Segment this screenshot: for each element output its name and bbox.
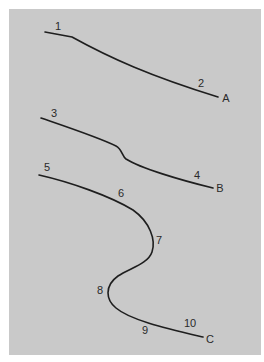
curve-b bbox=[41, 118, 213, 188]
point-label-8: 8 bbox=[97, 285, 103, 296]
curve-label-c: C bbox=[206, 334, 214, 345]
point-label-6: 6 bbox=[118, 188, 124, 199]
point-label-4: 4 bbox=[194, 170, 200, 181]
curve-label-b: B bbox=[216, 183, 223, 194]
curve-a bbox=[45, 32, 218, 97]
curve-c bbox=[39, 175, 203, 337]
point-label-7: 7 bbox=[156, 235, 162, 246]
curves-canvas bbox=[0, 0, 264, 362]
point-label-1: 1 bbox=[55, 21, 61, 32]
point-label-3: 3 bbox=[51, 108, 57, 119]
point-label-10: 10 bbox=[184, 318, 196, 329]
curve-label-a: A bbox=[222, 93, 229, 104]
point-label-9: 9 bbox=[142, 325, 148, 336]
point-label-5: 5 bbox=[44, 162, 50, 173]
point-label-2: 2 bbox=[198, 78, 204, 89]
